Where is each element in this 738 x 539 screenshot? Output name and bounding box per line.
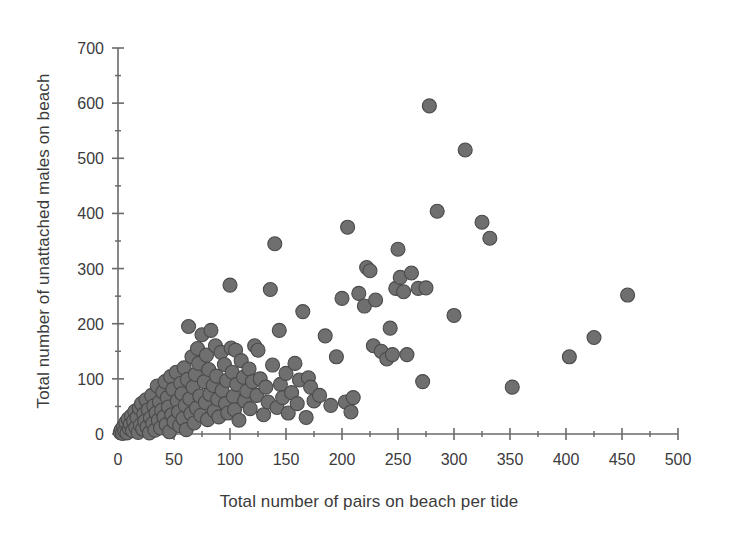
- data-point: [621, 288, 635, 302]
- data-point: [419, 281, 433, 295]
- data-point: [251, 343, 265, 357]
- data-point: [263, 283, 277, 297]
- data-point: [383, 321, 397, 335]
- data-point: [562, 350, 576, 364]
- x-tick-label: 450: [609, 451, 636, 468]
- x-tick-label: 300: [441, 451, 468, 468]
- scatter-plot-figure: 0501001502002503003504004505000100200300…: [0, 0, 738, 539]
- data-point: [505, 380, 519, 394]
- data-point: [385, 348, 399, 362]
- data-point: [587, 331, 601, 345]
- x-tick-label: 0: [114, 451, 123, 468]
- data-point: [288, 356, 302, 370]
- x-tick-label: 100: [217, 451, 244, 468]
- data-point: [363, 264, 377, 278]
- data-point: [257, 408, 271, 422]
- data-point: [458, 143, 472, 157]
- data-point: [329, 350, 343, 364]
- x-tick-label: 250: [385, 451, 412, 468]
- x-tick-label: 150: [273, 451, 300, 468]
- x-tick-label: 50: [165, 451, 183, 468]
- x-tick-label: 400: [553, 451, 580, 468]
- y-axis-title: Total number of unattached males on beac…: [34, 21, 54, 461]
- data-point: [416, 375, 430, 389]
- y-tick-label: 600: [77, 95, 104, 112]
- data-point: [430, 204, 444, 218]
- data-point: [324, 398, 338, 412]
- data-point: [296, 305, 310, 319]
- data-point: [204, 323, 218, 337]
- data-point: [223, 278, 237, 292]
- y-tick-label: 0: [95, 426, 104, 443]
- data-point: [299, 410, 313, 424]
- data-point: [422, 99, 436, 113]
- data-point: [344, 405, 358, 419]
- plot-canvas: 0501001502002503003504004505000100200300…: [0, 0, 738, 539]
- y-tick-label: 200: [77, 316, 104, 333]
- data-point: [272, 323, 286, 337]
- data-point: [182, 319, 196, 333]
- data-point: [397, 285, 411, 299]
- data-point: [404, 266, 418, 280]
- data-point: [318, 329, 332, 343]
- data-point: [266, 358, 280, 372]
- y-tick-label: 500: [77, 150, 104, 167]
- x-tick-label: 500: [665, 451, 692, 468]
- data-points-layer: [113, 99, 634, 441]
- data-point: [346, 391, 360, 405]
- data-point: [268, 237, 282, 251]
- x-tick-label: 350: [497, 451, 524, 468]
- x-tick-label: 200: [329, 451, 356, 468]
- data-point: [341, 220, 355, 234]
- data-point: [259, 380, 273, 394]
- y-tick-label: 300: [77, 261, 104, 278]
- y-tick-label: 700: [77, 40, 104, 57]
- data-point: [352, 286, 366, 300]
- data-point: [242, 362, 256, 376]
- data-point: [290, 397, 304, 411]
- data-point: [313, 388, 327, 402]
- data-point: [232, 413, 246, 427]
- y-tick-label: 100: [77, 371, 104, 388]
- data-point: [243, 402, 257, 416]
- y-tick-label: 400: [77, 205, 104, 222]
- data-point: [475, 215, 489, 229]
- data-point: [335, 291, 349, 305]
- data-point: [447, 308, 461, 322]
- data-point: [400, 348, 414, 362]
- data-point: [369, 293, 383, 307]
- x-axis-title: Total number of pairs on beach per tide: [0, 492, 738, 512]
- data-point: [483, 231, 497, 245]
- data-point: [391, 242, 405, 256]
